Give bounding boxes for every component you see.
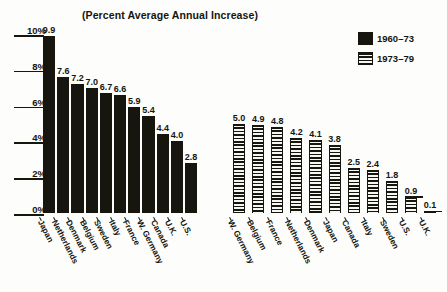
bar-value-label: 0.1: [419, 200, 441, 210]
category-label: Japan: [321, 218, 341, 244]
bar-value-label: 0.9: [400, 186, 422, 196]
bar-value-label: 4.8: [266, 116, 288, 126]
bar: [114, 95, 126, 213]
category-label: U.S.: [397, 218, 413, 237]
bar-value-label: 2.4: [362, 159, 384, 169]
bar-value-label: 5.4: [137, 105, 159, 115]
bar-value-underline: [425, 211, 442, 212]
bar-value-label: 1.8: [381, 170, 403, 180]
legend-label-1973-79: 1973–79: [377, 53, 414, 64]
bar: [309, 140, 321, 213]
bar: [386, 181, 398, 213]
bar: [252, 125, 264, 213]
bar: [233, 124, 245, 214]
legend-swatch-striped-icon: [358, 52, 373, 65]
bar: [329, 145, 341, 213]
legend-item-1960-73: 1960–73: [358, 32, 414, 45]
bar: [367, 170, 379, 213]
legend-swatch-solid-icon: [358, 32, 373, 45]
bar: [86, 88, 98, 213]
bar: [290, 138, 302, 213]
bar: [71, 84, 83, 213]
bar: [185, 163, 197, 213]
chart-legend: 1960–73 1973–79: [358, 32, 414, 72]
y-axis-tick-label: 8%: [14, 60, 46, 71]
bar: [43, 36, 55, 213]
bar: [128, 107, 140, 213]
bar-value-label: 6.6: [109, 84, 131, 94]
category-label: U.S.: [178, 218, 194, 237]
bar: [157, 134, 169, 213]
bar-chart: (Percent Average Annual Increase) 0%2%4%…: [0, 0, 447, 292]
bar: [271, 127, 283, 213]
bar-value-label: 2.8: [180, 152, 202, 162]
bar: [100, 93, 112, 213]
bar-value-label: 3.8: [324, 134, 346, 144]
legend-item-1973-79: 1973–79: [358, 52, 414, 65]
category-label: U.K.: [417, 218, 433, 237]
category-label: Italy: [359, 218, 375, 237]
y-axis-tick-label: 0%: [14, 204, 46, 215]
legend-label-1960-73: 1960–73: [377, 33, 414, 44]
bar-value-label: 4.0: [166, 130, 188, 140]
bar: [405, 197, 417, 213]
bar: [57, 77, 69, 213]
bar: [348, 168, 360, 213]
y-axis-tick-label: 2%: [14, 168, 46, 179]
y-axis-tick-label: 6%: [14, 96, 46, 107]
bar-value-underline: [405, 196, 422, 197]
bar-value-label: 9.9: [38, 25, 60, 35]
y-axis-tick-label: 4%: [14, 132, 46, 143]
